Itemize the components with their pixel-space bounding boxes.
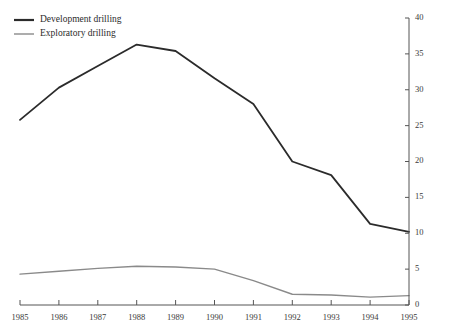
x-tick-label: 1988 xyxy=(128,312,145,322)
y-tick-label: 30 xyxy=(415,84,424,94)
y-tick-label: 5 xyxy=(415,263,419,273)
x-tick-label: 1987 xyxy=(89,312,106,322)
x-tick-label: 1995 xyxy=(401,312,418,322)
x-tick-label: 1990 xyxy=(206,312,223,322)
x-tick-label: 1993 xyxy=(323,312,340,322)
x-tick-label: 1986 xyxy=(50,312,67,322)
x-tick-label: 1991 xyxy=(245,312,262,322)
chart-background xyxy=(0,0,465,334)
y-tick-label: 10 xyxy=(415,227,424,237)
y-tick-label: 20 xyxy=(415,155,424,165)
y-tick-label: 25 xyxy=(415,120,424,130)
legend-label-1: Development drilling xyxy=(40,14,122,24)
legend-label-2: Exploratory drilling xyxy=(40,28,116,38)
y-tick-label: 35 xyxy=(415,48,424,58)
y-tick-label: 0 xyxy=(415,299,419,309)
y-tick-label: 40 xyxy=(415,12,424,22)
x-tick-label: 1992 xyxy=(284,312,301,322)
y-tick-label: 15 xyxy=(415,191,424,201)
line-chart: Development drillingExploratory drilling… xyxy=(0,0,465,334)
chart-container: Development drillingExploratory drilling… xyxy=(0,0,465,334)
x-tick-label: 1994 xyxy=(362,312,380,322)
x-tick-label: 1985 xyxy=(12,312,29,322)
x-tick-label: 1989 xyxy=(167,312,184,322)
